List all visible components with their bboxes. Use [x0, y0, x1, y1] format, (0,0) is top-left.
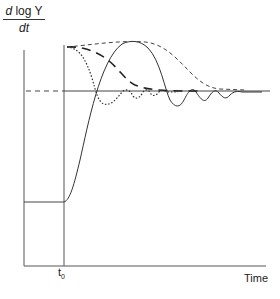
chart-plot [0, 0, 280, 299]
x-axis-label: Time [244, 272, 268, 284]
t0-subscript: 0 [61, 273, 65, 280]
t0-tick-label: t0 [58, 266, 65, 280]
solid-response-curve [64, 41, 262, 202]
long-dash-response-curve [67, 47, 200, 91]
